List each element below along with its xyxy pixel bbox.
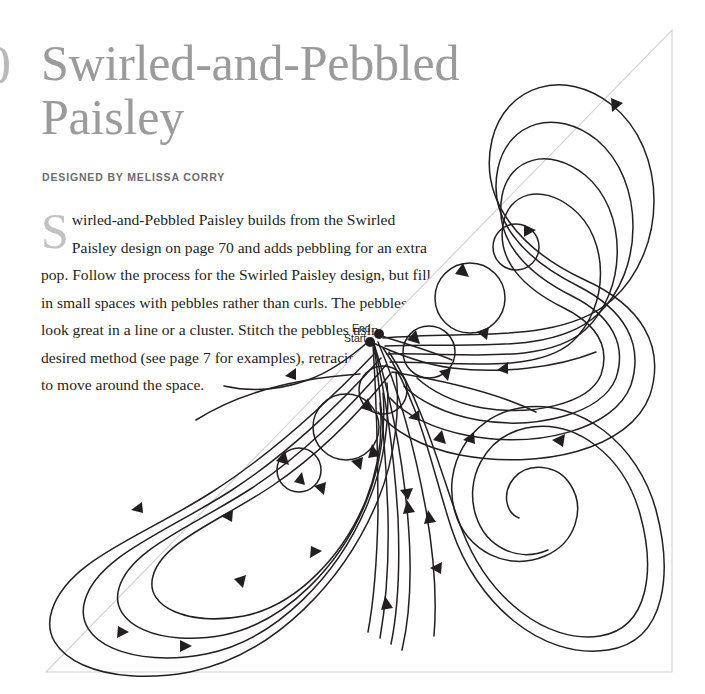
designer-byline: DESIGNED BY MELISSA CORRY <box>42 171 225 183</box>
pebble <box>435 263 505 333</box>
page-canvas: 0 Swirled-and-Pebbled Paisley DESIGNED B… <box>0 0 705 694</box>
body-text: wirled-and-Pebbled Paisley builds from t… <box>41 211 431 393</box>
folio-number: 0 <box>0 38 11 92</box>
pebble <box>277 448 321 492</box>
pebble <box>313 394 379 460</box>
lower-left-paisley <box>50 352 398 676</box>
pebble <box>493 224 539 270</box>
drop-cap: S <box>41 207 72 253</box>
body-copy: Swirled-and-Pebbled Paisley builds from … <box>41 206 433 399</box>
start-label: Start. <box>344 332 369 344</box>
page-title: Swirled-and-Pebbled Paisley <box>41 36 561 144</box>
